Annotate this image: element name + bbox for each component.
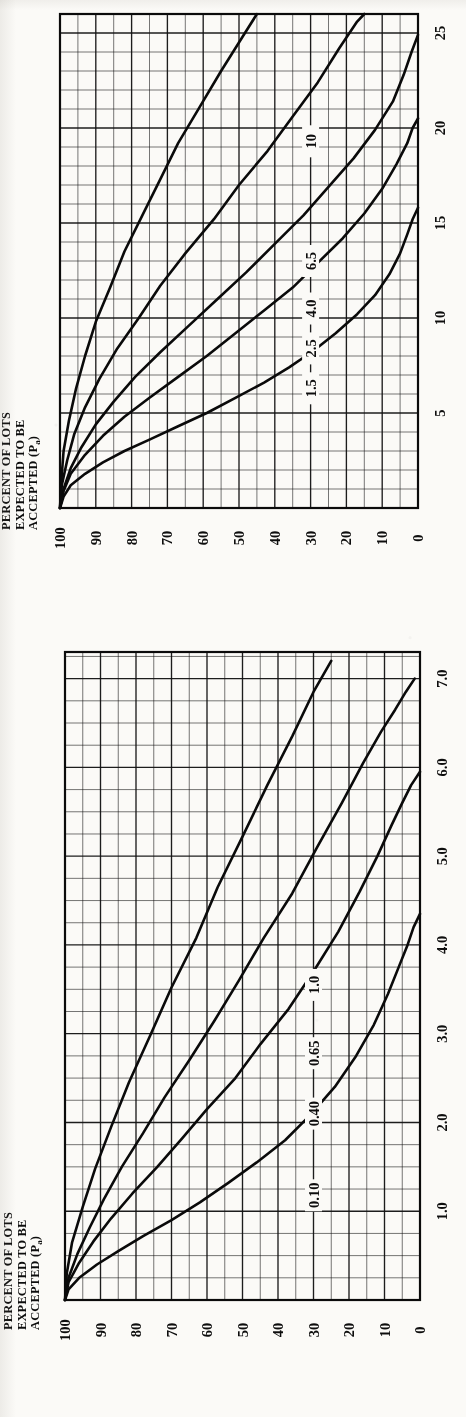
pa-tick-90: 90 — [93, 1323, 109, 1338]
x-tick-6_0: 6.0 — [434, 758, 450, 776]
svg-text:30: 30 — [306, 1323, 322, 1338]
svg-text:20: 20 — [341, 1323, 357, 1338]
svg-text:80: 80 — [128, 1323, 144, 1338]
svg-text:10: 10 — [374, 531, 390, 546]
pa-tick-40: 40 — [270, 1323, 286, 1338]
svg-text:10: 10 — [432, 311, 448, 326]
pa-tick-80: 80 — [128, 1323, 144, 1338]
y-axis-title: PERCENT OF LOTSEXPECTED TO BEACCEPTED (P… — [1, 1212, 44, 1330]
svg-text:30: 30 — [303, 531, 319, 546]
y-axis-title: PERCENT OF LOTSEXPECTED TO BEACCEPTED (P… — [0, 412, 42, 530]
oc-curve-chart-bottom: 0.100.400.651.010090807060504030201001.0… — [0, 640, 466, 1417]
pa-tick-10: 10 — [374, 531, 390, 546]
svg-text:5: 5 — [432, 409, 448, 416]
pa-tick-70: 70 — [159, 531, 175, 546]
svg-text:ACCEPTED (Pa): ACCEPTED (Pa) — [26, 436, 42, 530]
pa-tick-40: 40 — [267, 531, 283, 546]
pa-tick-0: 0 — [412, 1326, 428, 1333]
pa-tick-90: 90 — [88, 531, 104, 546]
svg-text:1.5: 1.5 — [303, 379, 319, 397]
curve-label-0_40: 0.40 — [305, 1098, 322, 1130]
pa-tick-50: 50 — [235, 1323, 251, 1338]
svg-text:40: 40 — [270, 1323, 286, 1338]
x-axis-ticks: 510152025 — [432, 26, 448, 417]
scanned-page: 1.52.54.06.51010090807060504030201005101… — [0, 0, 466, 1417]
curve-label-4_0: 4.0 — [302, 293, 319, 325]
curve-label-2_5: 2.5 — [302, 332, 319, 364]
svg-text:ACCEPTED (Pa): ACCEPTED (Pa) — [28, 1236, 44, 1330]
x-tick-10: 10 — [432, 311, 448, 326]
pa-tick-100: 100 — [57, 1319, 73, 1341]
svg-text:90: 90 — [93, 1323, 109, 1338]
svg-text:60: 60 — [195, 531, 211, 546]
top-chart: 1.52.54.06.51010090807060504030201005101… — [0, 0, 466, 600]
bottom-chart: 0.100.400.651.010090807060504030201001.0… — [0, 640, 466, 1417]
svg-text:6.5: 6.5 — [303, 252, 319, 270]
svg-text:50: 50 — [235, 1323, 251, 1338]
curve-label-1_0: 1.0 — [305, 969, 322, 1001]
svg-text:EXPECTED TO BE: EXPECTED TO BE — [15, 1220, 29, 1330]
svg-text:1.0: 1.0 — [434, 1202, 450, 1220]
curve-label-6_5: 6.5 — [302, 245, 319, 277]
svg-text:10: 10 — [303, 134, 319, 149]
x-tick-3_0: 3.0 — [434, 1025, 450, 1043]
pa-tick-30: 30 — [303, 531, 319, 546]
svg-text:50: 50 — [231, 531, 247, 546]
pa-tick-20: 20 — [338, 531, 354, 546]
curve-label-10: 10 — [302, 125, 319, 157]
x-tick-4_0: 4.0 — [434, 936, 450, 954]
pa-tick-30: 30 — [306, 1323, 322, 1338]
svg-text:20: 20 — [338, 531, 354, 546]
svg-text:2.5: 2.5 — [303, 339, 319, 357]
curve-label-0_10: 0.10 — [305, 1179, 322, 1211]
pa-tick-70: 70 — [164, 1323, 180, 1338]
svg-text:80: 80 — [124, 531, 140, 546]
svg-text:10: 10 — [377, 1323, 393, 1338]
curve-label-0_65: 0.65 — [305, 1037, 322, 1069]
svg-text:25: 25 — [432, 26, 448, 41]
svg-text:0.10: 0.10 — [306, 1183, 322, 1208]
svg-text:0.65: 0.65 — [306, 1041, 322, 1066]
svg-text:0: 0 — [412, 1326, 428, 1333]
svg-text:0: 0 — [410, 534, 426, 541]
grid — [60, 14, 418, 508]
svg-text:2.0: 2.0 — [434, 1113, 450, 1131]
pa-axis-ticks: 1009080706050403020100 — [52, 527, 426, 549]
svg-text:15: 15 — [432, 216, 448, 231]
x-axis-ticks: 1.02.03.04.05.06.07.0 — [434, 670, 450, 1221]
pa-tick-100: 100 — [52, 527, 68, 549]
x-tick-20: 20 — [432, 121, 448, 136]
svg-text:6.0: 6.0 — [434, 758, 450, 776]
x-tick-5_0: 5.0 — [434, 847, 450, 865]
svg-text:4.0: 4.0 — [434, 936, 450, 954]
svg-text:3.0: 3.0 — [434, 1025, 450, 1043]
x-tick-5: 5 — [432, 409, 448, 416]
x-tick-15: 15 — [432, 216, 448, 231]
x-tick-25: 25 — [432, 26, 448, 41]
pa-tick-0: 0 — [410, 534, 426, 541]
svg-text:60: 60 — [199, 1323, 215, 1338]
svg-text:PERCENT OF LOTS: PERCENT OF LOTS — [0, 412, 13, 530]
pa-tick-20: 20 — [341, 1323, 357, 1338]
x-tick-7_0: 7.0 — [434, 670, 450, 688]
pa-tick-10: 10 — [377, 1323, 393, 1338]
x-tick-1_0: 1.0 — [434, 1202, 450, 1220]
svg-text:5.0: 5.0 — [434, 847, 450, 865]
pa-axis-ticks: 1009080706050403020100 — [57, 1319, 428, 1341]
svg-text:100: 100 — [52, 527, 68, 549]
svg-text:PERCENT OF LOTS: PERCENT OF LOTS — [1, 1212, 15, 1330]
svg-text:100: 100 — [57, 1319, 73, 1341]
svg-text:0.40: 0.40 — [306, 1101, 322, 1126]
svg-text:40: 40 — [267, 531, 283, 546]
svg-text:1.0: 1.0 — [306, 976, 322, 994]
svg-text:70: 70 — [164, 1323, 180, 1338]
svg-text:20: 20 — [432, 121, 448, 136]
svg-text:4.0: 4.0 — [303, 299, 319, 317]
svg-text:7.0: 7.0 — [434, 670, 450, 688]
oc-curve-chart-top: 1.52.54.06.51010090807060504030201005101… — [0, 0, 466, 600]
svg-text:EXPECTED TO BE: EXPECTED TO BE — [13, 420, 27, 530]
pa-tick-60: 60 — [199, 1323, 215, 1338]
svg-text:70: 70 — [159, 531, 175, 546]
curve-label-1_5: 1.5 — [302, 372, 319, 404]
pa-tick-80: 80 — [124, 531, 140, 546]
